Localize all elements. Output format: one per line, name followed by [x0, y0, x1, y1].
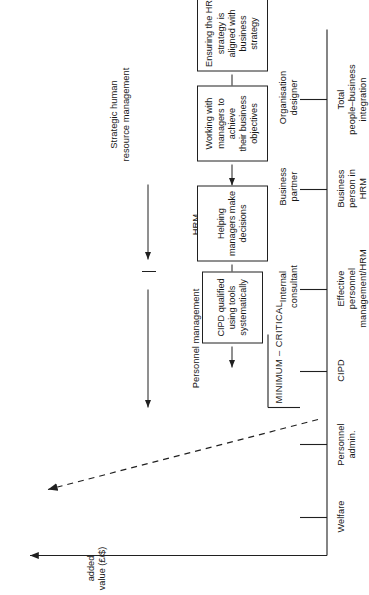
y-axis-label: added value (£/$): [86, 533, 108, 595]
stage-label-effective-personnel-management-hrm: Effective personnel management/HRM: [336, 243, 369, 333]
stage-label-business-person-in-hrm: Business person in HRM: [336, 153, 369, 223]
callout-box-cipd-qualified: CIPD qualified using tools systematicall…: [202, 271, 263, 343]
stage-label-personnel-admin: Personnel admin.: [336, 413, 358, 475]
callout-box-helping-managers: Helping managers make decisions: [197, 185, 268, 261]
callout-box-ensuring-hr-strategy: Ensuring the HR strategy is aligned with…: [197, 0, 268, 71]
callout-box-working-with-managers: Working with managers to achieve their b…: [197, 85, 268, 161]
role-label-business-partner: Business partner: [278, 151, 300, 221]
stage-label-total-people-business-integration: Total people–business integration: [336, 49, 369, 149]
phase-label-personnel-management: Personnel management: [190, 263, 202, 413]
role-label-organisation-designer: Organisation designer: [278, 57, 300, 137]
phase-label-strategic-hrm: Strategic human resource management: [108, 44, 131, 184]
stage-label-cipd: CIPD: [336, 339, 347, 401]
role-label-internal-consultant: Internal consultant: [278, 251, 300, 321]
stage-label-welfare: Welfare: [336, 485, 347, 547]
